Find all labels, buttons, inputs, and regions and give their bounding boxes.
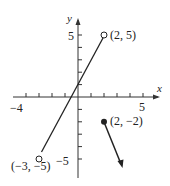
- annotation-neg3-neg5: (−3, −5): [11, 159, 51, 173]
- axes: [13, 18, 160, 178]
- x-axis-arrow-icon: [153, 95, 160, 100]
- ray-arrow-icon: [118, 160, 124, 169]
- y-axis-label: y: [66, 12, 72, 24]
- segment-1-line: [42, 38, 104, 152]
- y-tick-label-5: 5: [68, 29, 74, 43]
- x-ticks: [26, 93, 143, 97]
- x-tick-label-5: 5: [139, 100, 145, 114]
- function-graph: y x 5 −5 −4 5 (2, 5) (2, −2) (−3, −5): [0, 0, 170, 186]
- ray-2-line: [104, 122, 121, 164]
- x-axis-label: x: [156, 82, 162, 94]
- y-tick-label-neg5: −5: [56, 154, 69, 168]
- closed-point-2-neg2: [101, 119, 107, 125]
- x-tick-label-neg4: −4: [10, 101, 23, 115]
- y-axis-arrow-icon: [76, 18, 81, 25]
- open-point-2-5: [101, 32, 107, 38]
- annotation-2-neg2: (2, −2): [110, 114, 143, 128]
- annotation-2-5: (2, 5): [110, 28, 136, 42]
